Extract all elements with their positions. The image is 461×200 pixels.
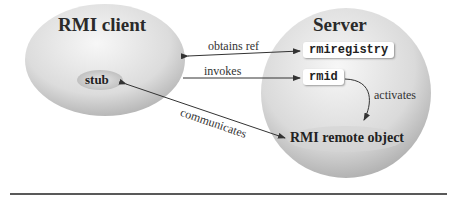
invokes-label: invokes — [204, 64, 241, 79]
rmiregistry-box: rmiregistry — [303, 42, 394, 58]
obtains-ref-label: obtains ref — [208, 39, 259, 54]
rmi-architecture-diagram: RMI client stub Server rmiregistry rmid … — [0, 0, 461, 200]
client-title: RMI client — [58, 14, 146, 36]
remote-object-label: RMI remote object — [290, 130, 404, 146]
activates-label: activates — [374, 88, 416, 103]
stub-label: stub — [85, 72, 109, 88]
server-title: Server — [313, 14, 367, 36]
rmid-box: rmid — [303, 69, 344, 85]
